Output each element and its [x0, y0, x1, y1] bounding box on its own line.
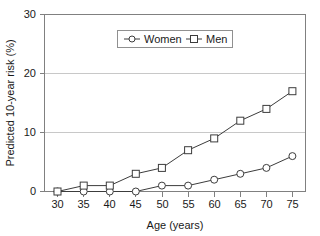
y-tick-label-20: 20 — [24, 67, 36, 79]
x-tick-label-50: 50 — [156, 198, 168, 210]
chart-container: 0 10 20 30 30 35 40 45 50 55 60 — [0, 0, 320, 236]
y-tick-label-30: 30 — [24, 8, 36, 20]
x-tick-label-75: 75 — [286, 198, 298, 210]
legend-label-women: Women — [144, 33, 182, 45]
y-axis-title: Predicted 10-year risk (%) — [4, 39, 16, 166]
circle-marker — [289, 153, 296, 160]
gridlines — [45, 74, 306, 133]
x-tick-marks — [58, 192, 293, 197]
x-tick-label-30: 30 — [51, 198, 63, 210]
series-line-men — [58, 91, 293, 191]
x-tick-label-40: 40 — [103, 198, 115, 210]
circle-marker — [211, 176, 218, 183]
data-series-layer — [54, 88, 296, 195]
circle-marker — [129, 36, 135, 42]
chart-legend: Women Men — [118, 31, 233, 48]
series-men — [54, 88, 296, 195]
x-axis-title: Age (years) — [147, 219, 204, 231]
x-tick-label-45: 45 — [129, 198, 141, 210]
legend-label-men: Men — [206, 33, 227, 45]
square-marker — [106, 182, 113, 189]
square-marker — [158, 164, 165, 171]
square-marker — [237, 117, 244, 124]
square-marker — [185, 147, 192, 154]
x-tick-label-70: 70 — [260, 198, 272, 210]
x-tick-labels: 30 35 40 45 50 55 60 65 70 75 — [51, 198, 298, 210]
y-tick-labels: 0 10 20 30 — [24, 8, 36, 197]
square-marker — [191, 36, 198, 43]
series-line-women — [58, 156, 293, 191]
line-chart-svg: 0 10 20 30 30 35 40 45 50 55 60 — [0, 0, 320, 236]
square-marker — [289, 88, 296, 95]
circle-marker — [237, 170, 244, 177]
square-marker — [263, 105, 270, 112]
x-tick-label-55: 55 — [182, 198, 194, 210]
circle-marker — [158, 182, 165, 189]
x-tick-label-65: 65 — [234, 198, 246, 210]
x-tick-label-60: 60 — [208, 198, 220, 210]
circle-marker — [263, 164, 270, 171]
circle-marker — [185, 182, 192, 189]
square-marker — [80, 182, 87, 189]
y-tick-label-0: 0 — [30, 185, 36, 197]
square-marker — [54, 188, 61, 195]
square-marker — [132, 170, 139, 177]
square-marker — [211, 135, 218, 142]
x-tick-label-35: 35 — [77, 198, 89, 210]
y-tick-label-10: 10 — [24, 126, 36, 138]
y-tick-marks — [40, 15, 45, 192]
circle-marker — [132, 188, 139, 195]
